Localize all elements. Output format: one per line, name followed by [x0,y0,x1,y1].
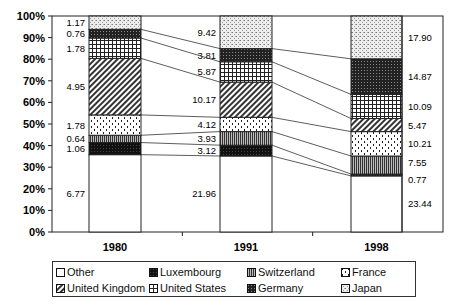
y-tick-label: 50% [23,118,45,130]
bar-segment-switzerland [351,156,402,174]
legend-label: United States [160,282,226,294]
value-label: 7.55 [408,157,427,168]
bar-segment-germany [351,59,402,95]
legend-label: United Kingdom [67,282,145,294]
chart-legend: Other Luxembourg Switzerland France Unit… [52,261,416,297]
bar-segment-luxembourg [89,143,141,155]
value-label: 10.09 [408,101,432,112]
bar-segment-france [351,132,402,156]
legend-item-other: Other [56,266,95,278]
value-label: 1.78 [67,43,86,54]
value-label: 10.21 [408,138,432,149]
legend-swatch-icon [247,284,256,293]
value-label: 23.44 [408,198,432,209]
bar-segment-germany [220,49,272,62]
legend-item-switzerland: Switzerland [247,266,315,278]
value-label: 3.93 [198,133,217,144]
stacked-bar-chart: 0%10%20%30%40%50%60%70%80%90%100%6.771.0… [0,0,454,260]
bar-segment-france [220,117,272,131]
connector-line [272,62,351,95]
legend-swatch-icon [56,284,65,293]
value-label: 5.47 [408,120,427,131]
y-tick-label: 100% [17,10,45,22]
legend-swatch-icon [149,284,158,293]
bar-segment-france [89,115,141,135]
y-tick-label: 0% [29,226,45,238]
connector-line [272,132,351,156]
y-tick-label: 90% [23,32,45,44]
bar-segment-united-kingdom [89,58,141,115]
legend-label: Switzerland [258,266,315,278]
bar-segment-switzerland [89,135,141,142]
value-label: 4.95 [67,81,86,92]
connector-line [272,82,351,118]
value-label: 1.78 [67,120,86,131]
connector-line [272,156,351,176]
value-label: 3.81 [198,50,217,61]
legend-label: Other [67,266,95,278]
legend-item-united-states: United States [149,282,226,294]
x-tick-label: 1998 [364,241,388,253]
bar-segment-united-kingdom [351,119,402,132]
legend-label: Japan [352,282,382,294]
legend-label: Germany [258,282,303,294]
bar-segment-united-states [89,38,141,58]
value-label: 4.12 [198,119,217,130]
bar-segment-japan [89,16,141,29]
value-label: 9.42 [198,27,217,38]
bar-segment-luxembourg [220,145,272,156]
value-label: 6.77 [67,188,86,199]
legend-item-united-kingdom: United Kingdom [56,282,145,294]
y-tick-label: 30% [23,161,45,173]
bar-segment-united-kingdom [220,82,272,117]
value-label: 21.96 [192,188,216,199]
y-tick-label: 10% [23,204,45,216]
bar-segment-switzerland [220,132,272,146]
x-tick-label: 1980 [103,241,127,253]
bar-segment-united-states [220,62,272,82]
legend-item-germany: Germany [247,282,303,294]
legend-item-luxembourg: Luxembourg [149,266,221,278]
connector-line [272,145,351,174]
bar-segment-other [351,176,402,232]
x-tick-label: 1991 [234,241,258,253]
legend-swatch-icon [149,268,158,277]
value-label: 3.12 [198,145,217,156]
value-label: 0.64 [67,133,86,144]
legend-swatch-icon [341,268,350,277]
legend-swatch-icon [247,268,256,277]
value-label: 14.87 [408,71,432,82]
connector-line [272,117,351,131]
legend-item-france: France [341,266,386,278]
y-tick-label: 80% [23,53,45,65]
bar-segment-germany [89,29,141,38]
y-tick-label: 60% [23,96,45,108]
legend-swatch-icon [56,268,65,277]
value-label: 0.77 [408,174,427,185]
y-tick-label: 40% [23,140,45,152]
value-label: 1.17 [67,17,86,28]
bar-segment-japan [220,16,272,49]
legend-label: France [352,266,386,278]
bar-segment-other [220,156,272,232]
connector-line [141,115,220,117]
bar-segment-united-states [351,94,402,118]
legend-label: Luxembourg [160,266,221,278]
value-label: 17.90 [408,32,432,43]
connector-line [272,49,351,59]
legend-swatch-icon [341,284,350,293]
bar-segment-other [89,155,141,232]
legend-item-japan: Japan [341,282,382,294]
value-label: 10.17 [192,94,216,105]
y-tick-label: 20% [23,183,45,195]
value-label: 0.76 [67,28,86,39]
value-label: 1.06 [67,143,86,154]
bar-segment-japan [351,16,402,59]
y-tick-label: 70% [23,75,45,87]
